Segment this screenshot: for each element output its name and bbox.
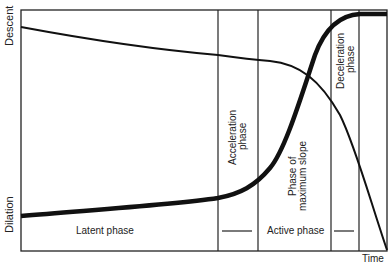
- descent-curve: [21, 27, 387, 250]
- active-phase-label: Active phase: [267, 225, 325, 236]
- y-label-descent: Descent: [3, 6, 15, 46]
- latent-phase-label: Latent phase: [76, 225, 134, 236]
- plot-frame: [21, 10, 387, 251]
- labor-curve-diagram: Descent Dilation Time Latent phase Activ…: [0, 0, 392, 264]
- deceleration-label-line2: phase: [345, 45, 356, 73]
- x-label-time: Time: [362, 253, 384, 264]
- acceleration-label-line2: phase: [237, 122, 248, 150]
- max-slope-label-line2: maximum slope: [297, 141, 308, 211]
- y-label-dilation: Dilation: [3, 196, 15, 233]
- dilation-curve: [21, 14, 387, 216]
